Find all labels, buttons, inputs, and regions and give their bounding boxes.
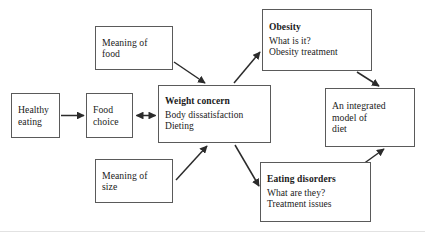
node-food-choice[interactable]: Food choice (86, 93, 133, 138)
node-obesity[interactable]: Obesity What is it? Obesity treatment (262, 9, 372, 71)
node-healthy-eating-line-1: Healthy (18, 104, 54, 115)
node-meaning-of-food-line-2: food (102, 48, 167, 59)
node-integrated-model-of-diet[interactable]: An integrated model of diet (325, 88, 415, 147)
node-integrated-model-line-1: An integrated (332, 100, 409, 111)
node-weight-concern-line-2: Dieting (165, 121, 265, 132)
node-food-choice-line-1: Food (93, 104, 127, 115)
node-integrated-model-line-3: diet (332, 123, 409, 134)
node-eating-disorders-line-1: What are they? (267, 188, 365, 199)
node-obesity-line-1: What is it? (269, 36, 366, 47)
node-meaning-of-food-line-1: Meaning of (102, 37, 167, 48)
node-healthy-eating[interactable]: Healthy eating (11, 93, 60, 138)
arrow-weight-concern-to-obesity (234, 52, 260, 83)
node-eating-disorders-line-2: Treatment issues (267, 199, 365, 210)
node-eating-disorders[interactable]: Eating disorders What are they? Treatmen… (260, 162, 371, 222)
arrow-obesity-to-integrated-model (357, 72, 379, 86)
node-meaning-of-size-line-1: Meaning of (102, 170, 167, 181)
node-obesity-line-2: Obesity treatment (269, 47, 366, 58)
node-healthy-eating-line-2: eating (18, 116, 54, 127)
arrow-meaning-of-food-to-weight-concern (174, 62, 205, 83)
page-bottom-rule (0, 231, 425, 232)
node-meaning-of-size[interactable]: Meaning of size (95, 159, 173, 203)
node-integrated-model-line-2: model of (332, 112, 409, 123)
node-weight-concern[interactable]: Weight concern Body dissatisfaction Diet… (158, 85, 271, 143)
node-obesity-title: Obesity (269, 22, 366, 33)
node-meaning-of-size-line-2: size (102, 181, 167, 192)
diagram-canvas: Healthy eating Food choice Meaning of fo… (0, 0, 425, 233)
arrow-weight-concern-to-eating-disorders (235, 145, 259, 186)
node-food-choice-line-2: choice (93, 116, 127, 127)
node-weight-concern-line-1: Body dissatisfaction (165, 110, 265, 121)
arrow-meaning-of-size-to-weight-concern (176, 146, 207, 180)
node-meaning-of-food[interactable]: Meaning of food (95, 26, 173, 70)
node-weight-concern-title: Weight concern (165, 96, 265, 107)
node-eating-disorders-title: Eating disorders (267, 174, 365, 185)
